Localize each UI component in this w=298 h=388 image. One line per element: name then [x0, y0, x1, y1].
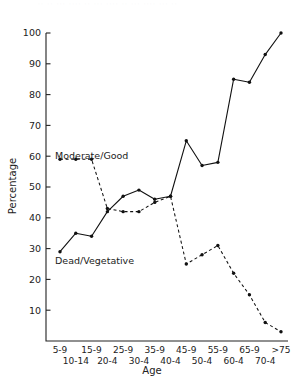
- y-tick-label-30: 30: [29, 243, 41, 254]
- series-line: [60, 33, 281, 252]
- series-label-dead-vegetative: Dead/Vegetative: [55, 255, 134, 266]
- x-tick-label-70-4: 70-4: [255, 356, 276, 366]
- data-point: [153, 198, 156, 201]
- data-point: [232, 78, 235, 81]
- x-tick-label-65-9: 65-9: [239, 345, 260, 355]
- x-tick-label-50-4: 50-4: [192, 356, 213, 366]
- x-tick-label->75: >75: [272, 345, 291, 355]
- data-point: [185, 262, 188, 265]
- x-tick-label-25-9: 25-9: [113, 345, 134, 355]
- data-point: [216, 161, 219, 164]
- y-tick-label-90: 90: [29, 58, 41, 69]
- y-tick-labels: 102030405060708090100: [23, 27, 41, 315]
- y-tick-label-60: 60: [29, 151, 41, 162]
- data-point: [200, 253, 203, 256]
- line-chart-canvas: 102030405060708090100 5-915-925-935-945-…: [0, 0, 298, 388]
- y-tick-label-80: 80: [29, 89, 41, 100]
- data-point: [137, 210, 140, 213]
- y-tick-label-40: 40: [29, 212, 41, 223]
- data-point: [264, 53, 267, 56]
- data-point: [58, 250, 61, 253]
- y-axis-title: Percentage: [7, 158, 18, 214]
- data-point: [74, 232, 77, 235]
- chart-figure: ·· ·· ··· ···· ·· ··· ···· ·· ··· ···· ·…: [0, 0, 298, 388]
- data-point: [106, 210, 109, 213]
- series-dead-vegetative: [58, 31, 282, 253]
- data-point: [232, 272, 235, 275]
- data-point: [169, 195, 172, 198]
- data-point: [90, 235, 93, 238]
- data-point: [279, 31, 282, 34]
- x-tick-label-5-9: 5-9: [53, 345, 68, 355]
- data-point: [106, 207, 109, 210]
- series-moderate-good: [58, 158, 282, 334]
- y-tick-label-50: 50: [29, 181, 41, 192]
- x-tick-label-20-4: 20-4: [97, 356, 118, 366]
- y-tick-label-70: 70: [29, 120, 41, 131]
- y-tick-marks: [46, 33, 51, 310]
- series-line: [60, 159, 281, 331]
- data-point: [121, 210, 124, 213]
- data-point: [153, 201, 156, 204]
- data-point: [185, 139, 188, 142]
- x-tick-labels: 5-915-925-935-945-955-965-9>7510-1420-43…: [53, 345, 291, 366]
- data-point: [248, 81, 251, 84]
- x-tick-label-15-9: 15-9: [81, 345, 102, 355]
- data-point: [121, 195, 124, 198]
- y-tick-label-10: 10: [29, 305, 41, 316]
- chart-series-layer: [58, 31, 282, 333]
- data-point: [137, 188, 140, 191]
- data-point: [248, 293, 251, 296]
- y-tick-label-100: 100: [23, 27, 41, 38]
- data-point: [200, 164, 203, 167]
- x-tick-label-55-9: 55-9: [208, 345, 229, 355]
- x-tick-label-40-4: 40-4: [160, 356, 181, 366]
- x-tick-label-35-9: 35-9: [144, 345, 165, 355]
- data-point: [216, 244, 219, 247]
- x-tick-label-60-4: 60-4: [223, 356, 244, 366]
- x-tick-label-10-14: 10-14: [63, 356, 89, 366]
- series-label-moderate-good: Moderate/Good: [55, 150, 128, 161]
- y-tick-label-20: 20: [29, 274, 41, 285]
- data-point: [279, 330, 282, 333]
- data-point: [264, 321, 267, 324]
- x-axis-title: Age: [142, 365, 161, 376]
- x-tick-label-45-9: 45-9: [176, 345, 197, 355]
